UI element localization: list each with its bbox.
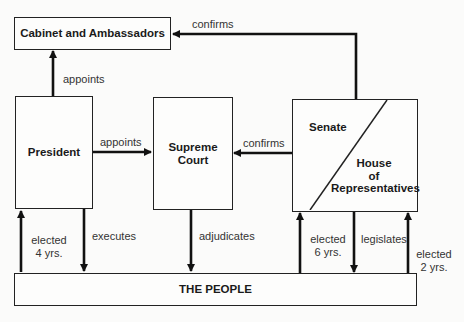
- people-box: THE PEOPLE: [14, 273, 417, 306]
- edge-label-adjudicates: adjudicates: [199, 230, 255, 243]
- court-label-line2: Court: [178, 154, 209, 167]
- president-box: President: [15, 96, 93, 209]
- house-label-line3: Representatives: [331, 182, 417, 195]
- president-label: President: [28, 146, 80, 159]
- edge-label-appoints-cabinet: appoints: [63, 73, 105, 86]
- edge-label-executes: executes: [92, 230, 136, 243]
- edge-label-elected-6yrs: elected 6 yrs.: [308, 233, 348, 258]
- arrow-congress-to-cabinet: [173, 34, 356, 99]
- supreme-court-box: Supreme Court: [153, 97, 233, 210]
- congress-box: Senate House of Representatives: [292, 99, 418, 212]
- people-label: THE PEOPLE: [179, 283, 252, 296]
- edge-label-confirms-court: confirms: [243, 137, 285, 150]
- cabinet-box: Cabinet and Ambassadors: [14, 17, 171, 50]
- house-label-line1: House: [331, 157, 417, 170]
- house-label-line2: of: [331, 170, 417, 183]
- edge-label-elected-2yrs: elected 2 yrs.: [414, 248, 454, 273]
- edge-label-confirms-cabinet: confirms: [192, 18, 234, 31]
- edge-label-appoints-court: appoints: [100, 136, 142, 149]
- cabinet-label: Cabinet and Ambassadors: [20, 27, 165, 40]
- court-label-line1: Supreme: [168, 141, 217, 154]
- senate-label: Senate: [309, 121, 347, 134]
- edge-label-elected-4yrs: elected 4 yrs.: [30, 234, 68, 259]
- house-label: House of Representatives: [331, 157, 417, 195]
- edge-label-legislates: legislates: [361, 233, 407, 246]
